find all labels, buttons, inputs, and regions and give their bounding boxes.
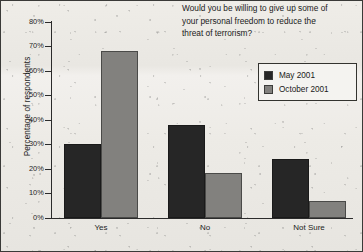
image-border [0,0,363,252]
